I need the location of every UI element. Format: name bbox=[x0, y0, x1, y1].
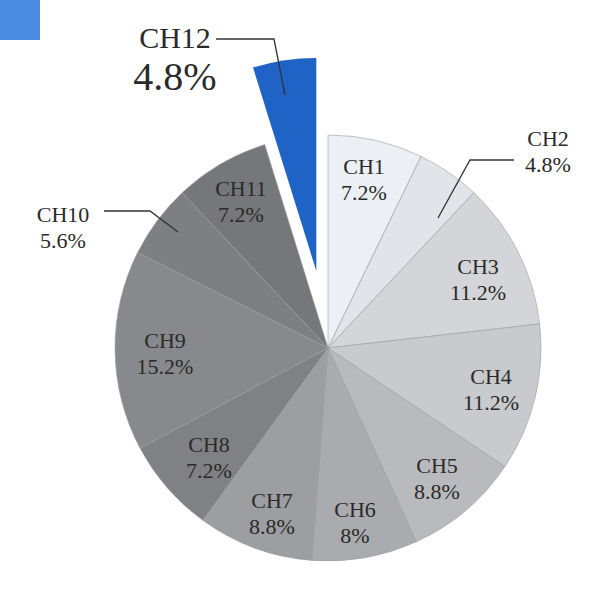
svg-text:CH2: CH2 bbox=[527, 126, 569, 151]
slice-label-ch6: CH68% bbox=[334, 497, 376, 548]
svg-text:4.8%: 4.8% bbox=[525, 152, 571, 177]
svg-text:CH8: CH8 bbox=[188, 432, 230, 457]
svg-text:CH9: CH9 bbox=[144, 328, 186, 353]
svg-text:CH12: CH12 bbox=[139, 21, 211, 54]
svg-text:11.2%: 11.2% bbox=[450, 280, 506, 305]
svg-text:15.2%: 15.2% bbox=[137, 354, 194, 379]
svg-text:8.8%: 8.8% bbox=[414, 479, 460, 504]
slice-label-ch1: CH17.2% bbox=[341, 154, 387, 205]
slice-label-ch10: CH105.6% bbox=[37, 202, 90, 253]
slice-label-ch11: CH117.2% bbox=[215, 176, 267, 227]
slice-label-ch9: CH915.2% bbox=[137, 328, 194, 379]
svg-text:CH4: CH4 bbox=[470, 364, 512, 389]
slice-label-ch12: CH124.8% bbox=[133, 21, 216, 99]
svg-text:CH3: CH3 bbox=[457, 254, 499, 279]
svg-text:CH7: CH7 bbox=[251, 488, 293, 513]
pie-chart: CH17.2%CH24.8%CH311.2%CH411.2%CH58.8%CH6… bbox=[0, 0, 600, 594]
svg-text:7.2%: 7.2% bbox=[186, 458, 232, 483]
svg-text:7.2%: 7.2% bbox=[341, 180, 387, 205]
slice-label-ch3: CH311.2% bbox=[450, 254, 506, 305]
slice-label-ch5: CH58.8% bbox=[414, 453, 460, 504]
svg-text:4.8%: 4.8% bbox=[133, 54, 216, 99]
svg-text:CH10: CH10 bbox=[37, 202, 90, 227]
svg-text:CH11: CH11 bbox=[215, 176, 267, 201]
svg-text:11.2%: 11.2% bbox=[463, 390, 519, 415]
svg-text:CH1: CH1 bbox=[343, 154, 385, 179]
slice-label-ch8: CH87.2% bbox=[186, 432, 232, 483]
svg-text:7.2%: 7.2% bbox=[218, 202, 264, 227]
slice-label-ch7: CH78.8% bbox=[249, 488, 295, 539]
svg-text:8%: 8% bbox=[340, 523, 369, 548]
svg-text:8.8%: 8.8% bbox=[249, 514, 295, 539]
svg-text:CH5: CH5 bbox=[416, 453, 458, 478]
slice-label-ch4: CH411.2% bbox=[463, 364, 519, 415]
slice-label-ch2: CH24.8% bbox=[525, 126, 571, 177]
svg-text:CH6: CH6 bbox=[334, 497, 376, 522]
svg-text:5.6%: 5.6% bbox=[40, 228, 86, 253]
